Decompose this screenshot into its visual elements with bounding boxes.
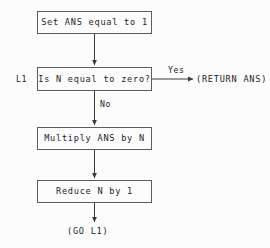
branch-label-yes: Yes	[168, 66, 185, 74]
node-reduce-n: Reduce N by 1	[37, 180, 152, 203]
loop-tag-l1: L1	[16, 75, 27, 83]
node-reduce-n-label: Reduce N by 1	[56, 187, 133, 196]
node-set-ans: Set ANS equal to 1	[37, 11, 152, 34]
node-set-ans-label: Set ANS equal to 1	[41, 18, 148, 27]
terminal-return-ans: (RETURN ANS)	[196, 75, 267, 84]
flowchart-edges	[0, 0, 270, 248]
node-test-n-zero-label: Is N equal to zero?	[38, 75, 151, 84]
node-test-n-zero: Is N equal to zero?	[37, 67, 152, 91]
terminal-go-l1: (GO L1)	[67, 227, 108, 236]
branch-label-no: No	[100, 100, 111, 108]
node-multiply-ans-label: Multiply ANS by N	[44, 134, 145, 143]
node-multiply-ans: Multiply ANS by N	[37, 127, 152, 150]
flowchart-canvas: Set ANS equal to 1 L1 Is N equal to zero…	[0, 0, 270, 248]
